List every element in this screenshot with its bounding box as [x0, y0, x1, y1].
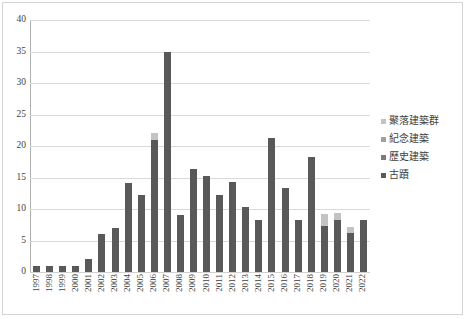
bar-column [138, 195, 145, 272]
x-tick-label-2021: 2021 [345, 274, 354, 292]
bar-segment [308, 157, 315, 272]
x-tick-label-2010: 2010 [202, 274, 211, 292]
x-tick-label-2007: 2007 [162, 274, 171, 292]
y-tick-label-0: 0 [2, 267, 26, 277]
legend-swatch-icon [381, 155, 386, 160]
bar-column [203, 176, 210, 272]
bar-segment [59, 266, 66, 272]
legend-item[interactable]: 古蹟 [381, 166, 461, 184]
x-tick-label-2002: 2002 [97, 274, 106, 292]
bar-column [125, 183, 132, 272]
bar-segment [112, 228, 119, 272]
x-tick-label-2012: 2012 [228, 274, 237, 292]
legend-item[interactable]: 歷史建築 [381, 148, 461, 166]
bar-segment [72, 266, 79, 272]
legend-swatch-icon [381, 119, 386, 124]
chart-container: 0510152025303540 19971998199920002001200… [0, 0, 467, 319]
bar-segment [282, 188, 289, 272]
bar-segment [138, 195, 145, 272]
bar-column [282, 188, 289, 272]
bar-segment [295, 220, 302, 272]
legend-swatch-icon [381, 173, 386, 178]
bar-column [85, 259, 92, 272]
bar-segment [203, 176, 210, 272]
x-tick-label-2003: 2003 [110, 274, 119, 292]
bar-column [360, 220, 367, 272]
bar-segment [347, 233, 354, 272]
gridline-25 [30, 115, 370, 116]
legend-item[interactable]: 紀念建築 [381, 130, 461, 148]
bar-segment [46, 266, 53, 272]
y-axis-tick-labels: 0510152025303540 [0, 20, 26, 272]
plot-area [30, 20, 370, 272]
x-tick-label-2009: 2009 [188, 274, 197, 292]
bar-column [72, 266, 79, 272]
bar-column [151, 133, 158, 272]
legend-label: 歷史建築 [389, 152, 429, 162]
y-tick-label-5: 5 [2, 236, 26, 246]
x-axis-tick-labels: 1997199819992000200120022003200420052006… [30, 274, 370, 316]
bar-segment [321, 226, 328, 272]
gridline-35 [30, 52, 370, 53]
bar-column [177, 215, 184, 272]
gridline-40 [30, 20, 370, 21]
bar-segment [255, 220, 262, 272]
bar-column [242, 207, 249, 272]
legend-swatch-icon [381, 137, 386, 142]
bar-segment [33, 266, 40, 272]
bar-segment [242, 207, 249, 272]
bar-segment [334, 220, 341, 272]
y-tick-label-25: 25 [2, 110, 26, 120]
bar-column [229, 182, 236, 272]
x-tick-label-2006: 2006 [149, 274, 158, 292]
bar-column [334, 213, 341, 272]
bar-segment [229, 182, 236, 272]
x-tick-label-2019: 2019 [319, 274, 328, 292]
x-tick-label-2000: 2000 [71, 274, 80, 292]
x-tick-label-2022: 2022 [358, 274, 367, 292]
bar-column [46, 266, 53, 272]
x-tick-label-2004: 2004 [123, 274, 132, 292]
x-tick-label-2015: 2015 [267, 274, 276, 292]
legend-item[interactable]: 聚落建築群 [381, 112, 461, 130]
x-tick-label-2016: 2016 [280, 274, 289, 292]
bar-segment [177, 215, 184, 272]
chart-legend: 聚落建築群紀念建築歷史建築古蹟 [381, 112, 461, 184]
x-tick-label-2018: 2018 [306, 274, 315, 292]
bar-segment [85, 259, 92, 272]
y-tick-label-30: 30 [2, 78, 26, 88]
bar-segment [125, 183, 132, 272]
bar-column [216, 195, 223, 272]
x-tick-label-2013: 2013 [241, 274, 250, 292]
x-tick-label-2011: 2011 [215, 274, 224, 292]
x-tick-label-1997: 1997 [32, 274, 41, 292]
legend-label: 聚落建築群 [389, 116, 439, 126]
x-tick-label-2005: 2005 [136, 274, 145, 292]
bar-segment [98, 234, 105, 272]
bar-column [347, 227, 354, 272]
y-tick-label-35: 35 [2, 47, 26, 57]
bar-column [308, 157, 315, 272]
bar-column [255, 220, 262, 272]
x-tick-label-2017: 2017 [293, 274, 302, 292]
legend-label: 紀念建築 [389, 134, 429, 144]
bar-segment [268, 138, 275, 272]
y-tick-label-40: 40 [2, 15, 26, 25]
bar-column [59, 266, 66, 272]
y-tick-label-15: 15 [2, 173, 26, 183]
bar-segment [151, 140, 158, 272]
bar-column [112, 228, 119, 272]
legend-label: 古蹟 [389, 170, 409, 180]
bar-segment [216, 195, 223, 272]
bar-column [33, 266, 40, 272]
x-tick-label-2008: 2008 [175, 274, 184, 292]
bar-column [268, 138, 275, 272]
gridline-20 [30, 146, 370, 147]
bar-column [321, 214, 328, 272]
x-tick-label-1999: 1999 [58, 274, 67, 292]
gridline-0 [30, 272, 370, 273]
bar-column [295, 220, 302, 272]
y-tick-label-10: 10 [2, 204, 26, 214]
x-tick-label-1998: 1998 [45, 274, 54, 292]
gridline-5 [30, 241, 370, 242]
